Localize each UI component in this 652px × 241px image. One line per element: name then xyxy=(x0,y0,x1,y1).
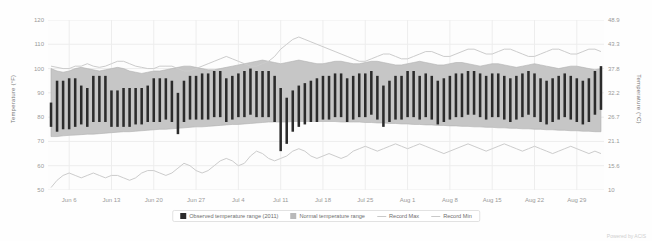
observed-range-bar xyxy=(376,76,379,120)
observed-range-bar xyxy=(316,78,319,122)
x-tick-label: Jun 20 xyxy=(145,197,163,203)
normal-temperature-band xyxy=(51,60,601,137)
legend-swatch-icon xyxy=(290,213,296,219)
observed-range-bar xyxy=(86,88,89,127)
temperature-range-chart: Temperature (°F) Temperature (°C) 120110… xyxy=(0,0,652,241)
observed-range-bar xyxy=(134,88,137,124)
plot-svg xyxy=(48,20,604,190)
observed-range-bar xyxy=(92,76,95,122)
x-tick-label: Aug 8 xyxy=(442,197,458,203)
y-tick-label-right: 43.3 xyxy=(608,41,632,47)
observed-range-bar xyxy=(539,78,542,122)
legend-item[interactable]: Observed temperature range (2011) xyxy=(180,213,278,219)
legend-label: Record Min xyxy=(443,213,472,219)
y-axis-left-title: Temperature (°F) xyxy=(10,64,16,134)
observed-range-bar xyxy=(328,76,331,120)
observed-range-bar xyxy=(298,86,301,127)
y-tick-label-right: 26.7 xyxy=(608,114,632,120)
observed-range-bar xyxy=(171,81,174,122)
y-tick-label-left: 120 xyxy=(22,17,44,23)
x-tick-label: Aug 29 xyxy=(567,197,586,203)
observed-range-bar xyxy=(80,86,83,125)
observed-range-bar xyxy=(207,73,210,119)
y-tick-label-right: 37.8 xyxy=(608,66,632,72)
y-tick-label-right: 32.2 xyxy=(608,90,632,96)
y-axis-right-ticks: 48.943.337.832.226.721.115.610 xyxy=(608,0,632,241)
observed-range-bar xyxy=(285,98,288,144)
legend-line-icon xyxy=(431,216,440,217)
observed-range-bar xyxy=(56,81,59,132)
observed-range-bar xyxy=(195,76,198,120)
observed-range-bar xyxy=(50,103,53,127)
observed-range-bar xyxy=(340,73,343,117)
observed-range-bar xyxy=(128,88,131,127)
x-tick-label: Jun 27 xyxy=(187,197,205,203)
x-tick-label: Jun 13 xyxy=(102,197,120,203)
x-tick-label: Jun 6 xyxy=(62,197,77,203)
observed-range-bar xyxy=(388,81,391,122)
observed-range-bar xyxy=(346,78,349,122)
y-tick-label-left: 70 xyxy=(22,138,44,144)
observed-range-bar xyxy=(231,76,234,120)
observed-range-bar xyxy=(461,73,464,117)
observed-range-bar xyxy=(183,81,186,122)
observed-range-bar xyxy=(279,88,282,151)
y-axis-right-title: Temperature (°C) xyxy=(636,64,642,134)
y-tick-label-right: 48.9 xyxy=(608,17,632,23)
observed-range-bar xyxy=(201,73,204,119)
y-tick-label-right: 10 xyxy=(608,187,632,193)
observed-range-bar xyxy=(594,71,597,115)
chart-legend: Observed temperature range (2011)Normal … xyxy=(172,210,480,222)
observed-range-bar xyxy=(394,76,397,120)
credit-text: Powered by ACIS xyxy=(607,233,646,239)
observed-range-bar xyxy=(503,76,506,120)
observed-range-bar xyxy=(430,76,433,120)
observed-range-bar xyxy=(364,73,367,117)
x-tick-label: Jul 4 xyxy=(232,197,245,203)
observed-range-bar xyxy=(146,86,149,122)
y-tick-label-right: 21.1 xyxy=(608,138,632,144)
observed-range-bar xyxy=(491,73,494,117)
x-tick-label: Jul 25 xyxy=(357,197,373,203)
observed-range-bar xyxy=(62,81,65,130)
observed-range-bar xyxy=(557,76,560,120)
observed-range-bar xyxy=(600,66,603,110)
y-tick-label-left: 50 xyxy=(22,187,44,193)
observed-range-bar xyxy=(219,71,222,117)
observed-range-bar xyxy=(273,76,276,122)
legend-item[interactable]: Record Min xyxy=(431,213,472,219)
legend-item[interactable]: Record Max xyxy=(377,213,419,219)
observed-range-bar xyxy=(110,90,113,126)
observed-range-bar xyxy=(455,73,458,117)
observed-range-bar xyxy=(165,78,168,119)
observed-range-bar xyxy=(310,81,313,122)
observed-range-bar xyxy=(497,73,500,117)
observed-range-bar xyxy=(261,71,264,117)
x-tick-label: Aug 15 xyxy=(483,197,502,203)
observed-range-bar xyxy=(521,73,524,117)
y-tick-label-left: 100 xyxy=(22,66,44,72)
observed-range-bar xyxy=(255,71,258,117)
observed-range-bar xyxy=(159,78,162,122)
y-tick-label-left: 80 xyxy=(22,114,44,120)
observed-range-bar xyxy=(237,73,240,117)
y-tick-label-left: 110 xyxy=(22,41,44,47)
observed-range-bar xyxy=(243,71,246,117)
observed-range-bar xyxy=(563,73,566,117)
legend-label: Record Max xyxy=(389,213,419,219)
legend-line-icon xyxy=(377,216,386,217)
observed-range-bar xyxy=(582,81,585,125)
observed-range-bar xyxy=(189,76,192,120)
observed-range-bar xyxy=(98,76,101,122)
observed-range-bar xyxy=(152,78,155,122)
observed-range-bar xyxy=(509,78,512,122)
y-tick-label-right: 15.6 xyxy=(608,163,632,169)
observed-range-bar xyxy=(533,73,536,117)
observed-range-bar xyxy=(140,88,143,124)
observed-range-bar xyxy=(382,86,385,127)
legend-item[interactable]: Normal temperature range xyxy=(290,213,365,219)
observed-range-bar xyxy=(400,76,403,120)
observed-range-bar xyxy=(551,78,554,122)
observed-range-bar xyxy=(249,69,252,115)
observed-range-bar xyxy=(116,90,119,126)
